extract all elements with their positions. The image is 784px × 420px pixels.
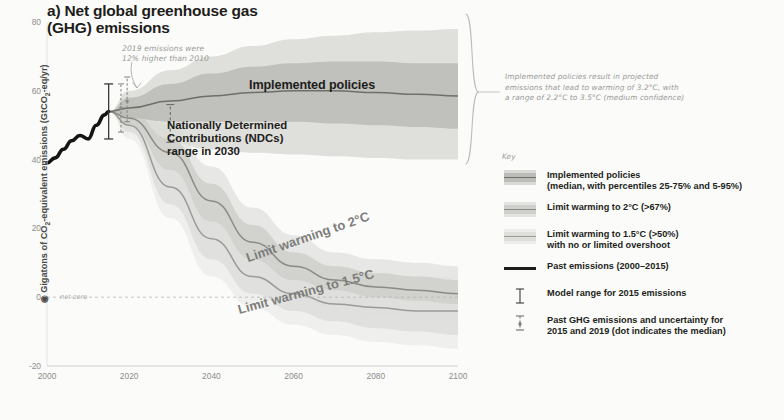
y-axis-title-a: Gigatons of CO <box>39 225 49 292</box>
x-axis-tick: 2100 <box>438 371 478 381</box>
legend-label-line2: (median, with percentiles 25-75% and 5-9… <box>547 181 742 192</box>
dashed-bar-icon <box>502 313 538 333</box>
legend-swatch-limit-2c <box>502 200 538 220</box>
label-ndc-line3: range in 2030 <box>167 145 317 158</box>
legend-label-line1: Limit warming to 2°C (>67%) <box>547 202 671 213</box>
side-note-line3: a range of 2.2°C to 3.5°C (medium confid… <box>505 93 737 104</box>
x-axis-tick: 2080 <box>356 371 396 381</box>
annotation-arrow-head <box>133 83 142 89</box>
label-ndc-range: Nationally Determined Contributions (NDC… <box>167 119 317 158</box>
legend-item-implemented-policies[interactable]: Implemented policies(median, with percen… <box>502 168 782 193</box>
y-axis-tick: -20 <box>15 361 41 371</box>
legend-swatch-limit-15c <box>502 227 538 247</box>
page-title: a) Net global greenhouse gas (GHG) emiss… <box>47 2 297 37</box>
y-axis-tick: 0 <box>15 292 41 302</box>
legend-label-line1: Implemented policies <box>547 170 742 181</box>
y-axis-tick: 40 <box>15 155 41 165</box>
annotation-2019-line2: 12% higher than 2010 <box>122 54 252 64</box>
label-ndc-line1: Nationally Determined <box>167 119 317 132</box>
legend-label-limit-2c: Limit warming to 2°C (>67%) <box>547 200 671 213</box>
legend-label-past-ghg-uncertainty: Past GHG emissions and uncertainty for20… <box>547 313 726 338</box>
x-axis-tick: 2040 <box>191 371 231 381</box>
side-note-line2: emissions that lead to warming of 3.2°C,… <box>505 83 737 94</box>
marker-past-ghg-2019-median-dot <box>125 99 128 102</box>
legend-label-line1: Past GHG emissions and uncertainty for <box>547 315 726 326</box>
legend-label-implemented-policies: Implemented policies(median, with percen… <box>547 168 742 193</box>
i-bar-icon <box>502 286 538 306</box>
marker-past-ghg-2015-median-dot <box>119 106 122 109</box>
legend-label-limit-15c: Limit warming to 1.5°C (>50%)with no or … <box>547 227 679 252</box>
side-note-line1: Implemented policies result in projected <box>505 72 737 83</box>
annotation-2019-line1: 2019 emissions were <box>122 44 252 54</box>
legend-swatch-implemented-policies <box>502 168 538 188</box>
annotation-implemented-policies-note: Implemented policies result in projected… <box>505 72 737 104</box>
legend-label-line2: 2015 and 2019 (dot indicates the median) <box>547 326 726 337</box>
legend-label-line2: with no or limited overshoot <box>547 240 679 251</box>
past-emissions-line <box>47 111 109 163</box>
figure-root: a) Net global greenhouse gas (GHG) emiss… <box>0 0 784 420</box>
legend-label-model-range-2015: Model range for 2015 emissions <box>547 286 686 299</box>
legend-item-model-range-2015[interactable]: Model range for 2015 emissions <box>502 286 782 306</box>
x-axis-tick: 2060 <box>274 371 314 381</box>
panel-label: a) <box>47 2 60 19</box>
x-axis-tick: 2000 <box>27 371 67 381</box>
legend-band-median <box>504 209 536 210</box>
legend-swatch-model-range-2015 <box>502 286 538 306</box>
y-axis-tick: 60 <box>15 86 41 96</box>
legend: Implemented policies(median, with percen… <box>502 168 782 344</box>
legend-item-past-emissions[interactable]: Past emissions (2000–2015) <box>502 259 782 279</box>
legend-label-line1: Past emissions (2000–2015) <box>547 261 669 272</box>
key-title: Key <box>502 152 516 161</box>
legend-item-limit-2c[interactable]: Limit warming to 2°C (>67%) <box>502 200 782 220</box>
x-axis-tick: 2020 <box>109 371 149 381</box>
legend-band-median <box>504 177 536 178</box>
legend-swatch-past-emissions <box>502 259 538 279</box>
annotation-2019-emissions: 2019 emissions were 12% higher than 2010 <box>122 44 252 64</box>
panel-title-text: Net global greenhouse gas (GHG) emission… <box>47 2 258 36</box>
legend-item-limit-15c[interactable]: Limit warming to 1.5°C (>50%)with no or … <box>502 227 782 252</box>
label-ndc-line2: Contributions (NDCs) <box>167 132 317 145</box>
legend-item-past-ghg-uncertainty[interactable]: Past GHG emissions and uncertainty for20… <box>502 313 782 338</box>
legend-label-line1: Model range for 2015 emissions <box>547 288 686 299</box>
y-axis-tick: 80 <box>15 17 41 27</box>
callout-brace <box>466 14 478 164</box>
y-axis-tick: 20 <box>15 223 41 233</box>
legend-band-median <box>504 236 536 237</box>
legend-swatch-past-ghg-uncertainty <box>502 313 538 333</box>
legend-label-past-emissions: Past emissions (2000–2015) <box>547 259 669 272</box>
legend-line <box>504 267 536 270</box>
net-zero-label: net zero <box>60 293 87 301</box>
legend-label-line1: Limit warming to 1.5°C (>50%) <box>547 229 679 240</box>
label-implemented-policies: Implemented policies <box>249 78 375 92</box>
